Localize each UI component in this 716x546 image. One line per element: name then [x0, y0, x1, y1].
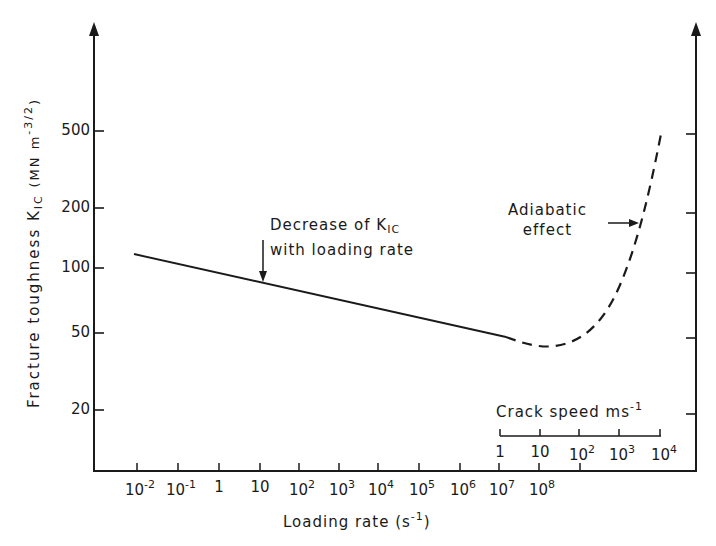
annotation-arrow-adiabatic [608, 219, 639, 227]
x-tick-label: 104 [368, 478, 394, 499]
x-tick-label: 1 [214, 478, 224, 496]
arrow-right-icon [629, 219, 639, 227]
crack-speed-tick-label: 104 [651, 443, 677, 464]
x-tick-label: 105 [409, 478, 435, 499]
crack-speed-tick-label: 103 [609, 443, 635, 464]
y-tick-label-20: 20 [50, 400, 90, 418]
x-tick-label: 103 [329, 478, 355, 499]
crack-speed-axis-label: Crack speed ms-1 [496, 400, 643, 421]
x-tick-label: 106 [450, 478, 476, 499]
y-axis-left [89, 22, 104, 471]
y-axis-right [686, 22, 701, 471]
arrow-down-icon [259, 271, 267, 282]
y-axis-arrow-icon [89, 22, 99, 36]
chart-canvas [0, 0, 716, 546]
x-tick-label: 10-1 [166, 478, 196, 499]
crack-speed-tick-label: 1 [495, 443, 505, 461]
x-tick-label: 10-2 [125, 478, 155, 499]
x-tick-label: 10 [250, 478, 269, 496]
annotation-decrease: Decrease of KIC with loading rate [270, 213, 414, 260]
x-tick-label: 107 [489, 478, 515, 499]
y-tick-label-200: 200 [50, 198, 90, 216]
series-adiabatic-line [506, 134, 661, 347]
series-decrease-line [134, 254, 506, 337]
annotation-adiabatic: Adiabatic effect [508, 200, 587, 240]
x-tick-label: 102 [289, 478, 315, 499]
annotation-arrow-decrease [259, 240, 267, 282]
x-tick-label: 108 [529, 478, 555, 499]
x-axis-label: Loading rate (s-1) [283, 510, 431, 531]
crack-speed-tick-label: 102 [569, 443, 595, 464]
y-tick-label-100: 100 [50, 258, 90, 276]
y-axis-right-arrow-icon [691, 22, 701, 36]
y-tick-label-50: 50 [50, 323, 90, 341]
crack-speed-tick-label: 10 [530, 443, 549, 461]
x-axis [93, 463, 697, 471]
y-tick-label-500: 500 [50, 121, 90, 139]
y-axis-label: Fracture toughness KIC (MN m-3/2) [22, 98, 45, 408]
crack-speed-axis [500, 429, 661, 436]
